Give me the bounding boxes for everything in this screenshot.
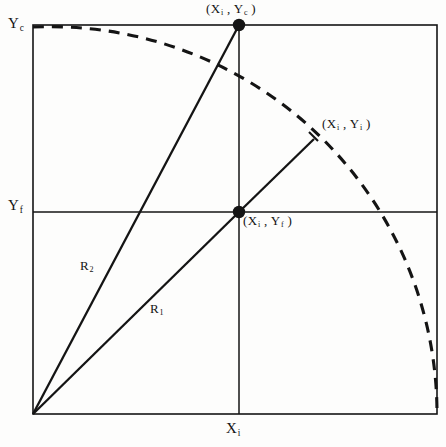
- label-point-arc-mid: , Y: [339, 116, 359, 131]
- label-point-top-mid: , Y: [223, 1, 243, 16]
- segment-radial-to-arc: [239, 139, 314, 212]
- label-point-arc-suffix: ): [362, 116, 370, 131]
- label-radius-outer-base: R: [80, 258, 89, 273]
- label-radius-inner: R1: [150, 302, 164, 317]
- axis-label-y-top: Yc: [8, 16, 24, 33]
- label-radius-outer: R2: [80, 259, 94, 274]
- axis-label-x-bottom: Xi: [226, 421, 240, 438]
- label-point-top-suffix: ): [248, 1, 256, 16]
- label-point-top: (Xi , Yc ): [206, 2, 256, 17]
- label-radius-outer-sub: 2: [89, 265, 94, 274]
- axis-label-y-top-sub: c: [19, 23, 24, 33]
- figure-root: (Xi , Yc ) (Xi , Yi ) (Xi , Yf ) Yc Yf X…: [0, 0, 446, 447]
- axis-label-y-mid: Yf: [8, 198, 23, 215]
- label-point-top-prefix: (X: [206, 1, 221, 16]
- label-point-mid-prefix: (X: [243, 213, 258, 228]
- label-point-mid-mid: , Y: [260, 213, 280, 228]
- axis-label-x-bottom-base: X: [226, 420, 237, 436]
- segment-r1: [33, 212, 239, 414]
- segment-r2: [33, 25, 239, 414]
- label-point-arc-prefix: (X: [322, 116, 337, 131]
- axis-label-y-mid-base: Y: [8, 197, 19, 213]
- diagram-canvas: [0, 0, 446, 447]
- label-point-arc: (Xi , Yi ): [322, 117, 371, 132]
- label-radius-inner-base: R: [150, 301, 159, 316]
- axis-label-y-mid-sub: f: [19, 205, 23, 215]
- label-radius-inner-sub: 1: [159, 308, 164, 317]
- axis-label-y-top-base: Y: [8, 15, 19, 31]
- marker-dot-top: [233, 19, 245, 31]
- label-point-mid: (Xi , Yf ): [243, 214, 292, 229]
- label-point-mid-suffix: ): [284, 213, 292, 228]
- axis-label-x-bottom-sub: i: [237, 428, 240, 438]
